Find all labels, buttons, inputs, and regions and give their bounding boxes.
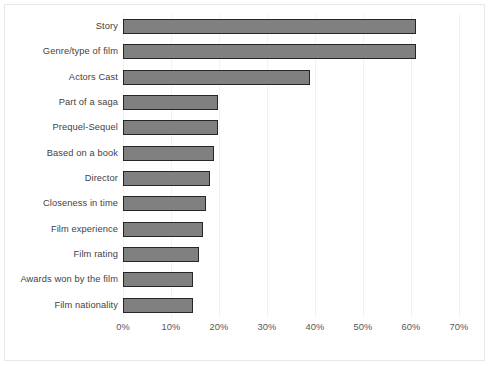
bar-row <box>123 14 459 39</box>
bar-part-of-a-saga <box>123 95 218 110</box>
bar-film-nationality <box>123 298 193 313</box>
bar-story <box>123 19 416 34</box>
x-tick-label: 70% <box>439 322 479 332</box>
bar-row <box>123 65 459 90</box>
bar-closeness-in-time <box>123 196 206 211</box>
x-tick-label: 0% <box>103 322 143 332</box>
category-label: Closeness in time <box>0 191 118 216</box>
bar-awards-won-by-the-film <box>123 272 193 287</box>
x-tick-label: 30% <box>247 322 287 332</box>
bar-row <box>123 217 459 242</box>
category-label: Director <box>0 166 118 191</box>
category-label: Film rating <box>0 242 118 267</box>
bar-chart-figure: StoryGenre/type of filmActors CastPart o… <box>0 0 490 366</box>
bar-prequel-sequel <box>123 120 218 135</box>
category-label: Story <box>0 14 118 39</box>
bar-actors-cast <box>123 70 310 85</box>
gridline-70% <box>459 14 460 318</box>
category-label: Based on a book <box>0 141 118 166</box>
bar-director <box>123 171 210 186</box>
category-label: Genre/type of film <box>0 39 118 64</box>
bar-row <box>123 141 459 166</box>
bar-row <box>123 267 459 292</box>
category-label: Film nationality <box>0 293 118 318</box>
category-label: Awards won by the film <box>0 267 118 292</box>
bar-row <box>123 242 459 267</box>
bar-row <box>123 293 459 318</box>
category-axis-labels: StoryGenre/type of filmActors CastPart o… <box>0 14 118 318</box>
bar-row <box>123 191 459 216</box>
x-tick-label: 20% <box>199 322 239 332</box>
x-tick-label: 40% <box>295 322 335 332</box>
x-tick-label: 60% <box>391 322 431 332</box>
bar-film-experience <box>123 222 203 237</box>
x-tick-label: 50% <box>343 322 383 332</box>
bar-series <box>123 14 459 318</box>
bar-genre-type-of-film <box>123 44 416 59</box>
bar-based-on-a-book <box>123 146 214 161</box>
bar-row <box>123 90 459 115</box>
value-axis-tick-labels: 0%10%20%30%40%50%60%70% <box>123 322 459 338</box>
category-label: Film experience <box>0 217 118 242</box>
bar-row <box>123 166 459 191</box>
category-label: Actors Cast <box>0 65 118 90</box>
category-label: Part of a saga <box>0 90 118 115</box>
plot-area <box>123 14 459 318</box>
x-tick-label: 10% <box>151 322 191 332</box>
bar-row <box>123 39 459 64</box>
bar-film-rating <box>123 247 199 262</box>
bar-row <box>123 115 459 140</box>
category-label: Prequel-Sequel <box>0 115 118 140</box>
